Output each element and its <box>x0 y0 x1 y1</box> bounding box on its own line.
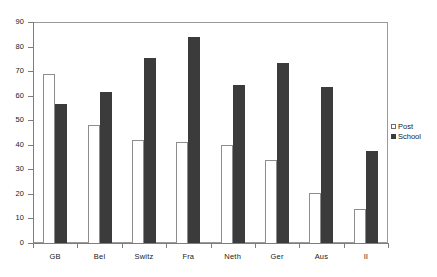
y-axis-label: 20 <box>2 190 24 198</box>
x-tick <box>344 243 345 248</box>
bar-post-bel[interactable] <box>88 125 100 243</box>
bar-group-bel <box>77 22 121 243</box>
bar-school-ger[interactable] <box>277 63 289 243</box>
y-axis-label: 30 <box>2 165 24 173</box>
chart-legend: Post School <box>391 122 435 142</box>
bar-group-ger <box>255 22 299 243</box>
bars-layer <box>33 22 388 243</box>
x-tick <box>166 243 167 248</box>
bar-post-aus[interactable] <box>309 193 321 243</box>
y-axis-label: 70 <box>2 67 24 75</box>
bar-school-neth[interactable] <box>233 85 245 243</box>
open-square-icon <box>391 124 396 129</box>
bar-group-gb <box>33 22 77 243</box>
y-axis-label: 80 <box>2 43 24 51</box>
bar-school-switz[interactable] <box>144 58 156 243</box>
bar-post-gb[interactable] <box>43 74 55 243</box>
bar-group-switz <box>122 22 166 243</box>
x-tick <box>255 243 256 248</box>
bar-school-fra[interactable] <box>188 37 200 243</box>
x-tick <box>211 243 212 248</box>
y-axis-label: 0 <box>2 239 24 247</box>
legend-item-school[interactable]: School <box>391 132 435 141</box>
x-axis-label-il: Il <box>339 252 393 261</box>
bar-post-ger[interactable] <box>265 160 277 243</box>
legend-item-post[interactable]: Post <box>391 122 435 131</box>
bar-post-neth[interactable] <box>221 145 233 243</box>
y-axis-label: 40 <box>2 141 24 149</box>
y-axis-label: 10 <box>2 214 24 222</box>
y-axis-label: 50 <box>2 116 24 124</box>
bar-group-aus <box>299 22 343 243</box>
legend-label-school: School <box>398 133 421 141</box>
bar-post-fra[interactable] <box>176 142 188 243</box>
x-tick <box>388 243 389 248</box>
bar-post-switz[interactable] <box>132 140 144 243</box>
bar-group-il <box>344 22 388 243</box>
bar-group-neth <box>211 22 255 243</box>
legend-label-post: Post <box>398 123 413 131</box>
bar-post-il[interactable] <box>354 209 366 243</box>
x-tick <box>33 243 34 248</box>
bar-group-fra <box>166 22 210 243</box>
x-tick <box>122 243 123 248</box>
bar-chart: 0102030405060708090 GBBelSwitzFraNethGer… <box>0 0 437 277</box>
bar-school-gb[interactable] <box>55 104 67 243</box>
bar-school-il[interactable] <box>366 151 378 243</box>
x-tick <box>77 243 78 248</box>
x-tick <box>299 243 300 248</box>
y-axis-label: 60 <box>2 92 24 100</box>
bar-school-aus[interactable] <box>321 87 333 243</box>
filled-square-icon <box>391 134 396 139</box>
y-axis-label: 90 <box>2 18 24 26</box>
bar-school-bel[interactable] <box>100 92 112 243</box>
